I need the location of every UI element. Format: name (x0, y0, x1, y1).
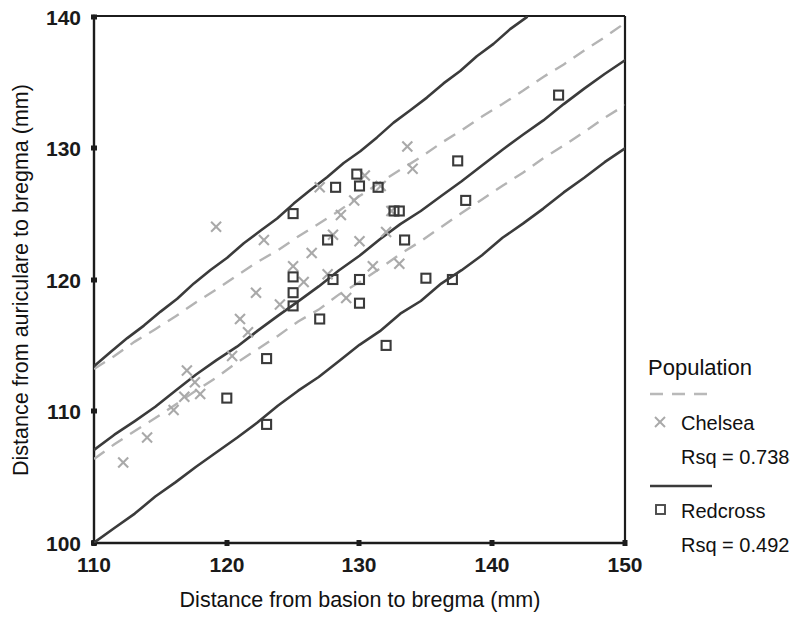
legend-rsq-chelsea: Rsq = 0.7384 (681, 446, 790, 468)
data-point-chelsea-5 (190, 377, 200, 387)
data-point-chelsea-21 (341, 293, 351, 303)
data-point-redcross-2 (262, 354, 271, 363)
x-tick-label-4: 150 (607, 553, 642, 576)
data-point-chelsea-7 (211, 222, 221, 232)
cross-marker-icon (655, 417, 665, 427)
y-axis-title: Distance from auriculare to bregma (mm) (9, 84, 33, 476)
data-point-chelsea-15 (299, 277, 309, 287)
square-marker-icon (656, 505, 665, 514)
data-point-chelsea-25 (368, 261, 378, 271)
data-markers-group (118, 91, 563, 468)
data-point-redcross-0 (222, 394, 231, 403)
scatter-plot-figure: Distance from basion to bregma (mm) Dist… (0, 0, 790, 634)
x-tick-label-2: 130 (341, 553, 376, 576)
data-point-chelsea-10 (243, 327, 253, 337)
data-point-redcross-19 (400, 236, 409, 245)
legend-rsq-redcross: Rsq = 0.4928 (681, 534, 790, 556)
data-point-chelsea-30 (402, 141, 412, 151)
fit-line-redcross-fit-line (94, 60, 625, 450)
data-point-chelsea-13 (275, 300, 285, 310)
y-tick-label-0: 100 (46, 532, 81, 555)
data-point-chelsea-14 (288, 261, 298, 271)
data-point-chelsea-22 (349, 195, 359, 205)
plot-frame (94, 16, 625, 543)
x-tick-label-3: 140 (474, 553, 509, 576)
x-tick-label-0: 110 (77, 553, 111, 576)
y-tick-label-1: 110 (47, 400, 81, 423)
data-point-chelsea-0 (118, 458, 128, 468)
data-point-redcross-5 (289, 288, 298, 297)
fit-line-chelsea-fit-line-lower (94, 105, 625, 459)
data-point-chelsea-29 (394, 259, 404, 269)
legend: Population Chelsea Rsq = 0.7384 Redcross… (648, 355, 790, 556)
legend-entry-chelsea[interactable]: Chelsea Rsq = 0.7384 (650, 394, 790, 468)
data-point-chelsea-9 (235, 314, 245, 324)
data-point-chelsea-11 (251, 288, 261, 298)
x-axis-title: Distance from basion to bregma (mm) (180, 588, 541, 612)
data-point-chelsea-16 (307, 248, 317, 258)
data-point-redcross-14 (355, 299, 364, 308)
data-point-redcross-10 (331, 183, 340, 192)
data-point-redcross-22 (453, 156, 462, 165)
x-tick-labels: 110 120 130 140 150 (77, 553, 642, 576)
y-tick-label-2: 120 (46, 269, 81, 292)
data-point-chelsea-23 (355, 236, 365, 246)
fit-line-redcross-fit-line-upper (94, 17, 527, 366)
data-point-redcross-16 (382, 341, 391, 350)
y-tick-label-4: 140 (46, 6, 81, 29)
y-tick-label-3: 130 (46, 137, 81, 160)
fit-lines-group (94, 17, 625, 543)
legend-label-chelsea: Chelsea (681, 412, 755, 434)
data-point-chelsea-12 (259, 235, 269, 245)
data-point-redcross-1 (262, 420, 271, 429)
data-point-chelsea-4 (182, 365, 192, 375)
data-point-chelsea-6 (195, 389, 205, 399)
fit-line-redcross-fit-line-lower (94, 148, 625, 542)
data-point-chelsea-1 (142, 433, 152, 443)
x-tick-label-1: 120 (209, 553, 244, 576)
data-point-redcross-24 (554, 91, 563, 100)
data-point-redcross-20 (421, 274, 430, 283)
data-point-redcross-7 (315, 315, 324, 324)
y-tick-labels: 100 110 120 130 140 (46, 6, 81, 555)
data-point-redcross-23 (461, 196, 470, 205)
legend-entry-redcross[interactable]: Redcross Rsq = 0.4928 (650, 486, 790, 556)
data-point-chelsea-31 (408, 164, 418, 174)
legend-label-redcross: Redcross (681, 500, 765, 522)
data-point-chelsea-8 (227, 351, 237, 361)
data-point-redcross-3 (289, 209, 298, 218)
data-point-redcross-12 (355, 182, 364, 191)
legend-title: Population (648, 355, 752, 380)
chart-canvas: Distance from basion to bregma (mm) Dist… (0, 0, 790, 634)
data-point-redcross-4 (289, 272, 298, 281)
data-point-chelsea-20 (336, 210, 346, 220)
